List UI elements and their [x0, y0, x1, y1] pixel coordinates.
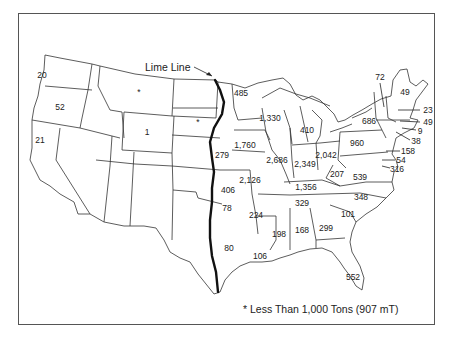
state-value-wi: 1,330	[259, 114, 280, 123]
state-value-ms: 198	[272, 230, 286, 239]
state-value-mt: *	[137, 88, 140, 97]
state-value-la: 106	[253, 252, 267, 261]
state-value-va: 539	[353, 173, 367, 182]
us-outline	[30, 55, 428, 294]
state-callout-ri: 9	[418, 127, 423, 136]
state-value-il: 2,686	[266, 156, 287, 165]
state-value-or: 52	[55, 103, 64, 112]
state-value-mn: 485	[234, 89, 248, 98]
state-value-tx: 80	[224, 244, 233, 253]
state-value-in: 2,349	[294, 160, 315, 169]
state-value-fl: 552	[346, 273, 360, 282]
state-value-wv: 207	[330, 170, 344, 179]
state-value-ny: 686	[362, 117, 376, 126]
state-callout-ct: 38	[411, 137, 420, 146]
us-map	[0, 0, 451, 340]
state-callout-me: 49	[400, 88, 409, 97]
state-value-nc: 348	[354, 193, 368, 202]
state-value-sc: 101	[341, 210, 355, 219]
state-value-al: 168	[295, 226, 309, 235]
state-value-sd: *	[196, 118, 199, 127]
lime-line-arrowhead	[206, 72, 212, 76]
state-value-ia: 1,760	[234, 141, 255, 150]
state-value-mi: 410	[300, 126, 314, 135]
state-value-ky: 1,356	[295, 183, 316, 192]
state-value-ok: 78	[222, 204, 231, 213]
state-value-ne-ks-border: 279	[215, 151, 229, 160]
state-value-ca: 21	[35, 136, 44, 145]
state-value-oh: 2,042	[315, 151, 336, 160]
state-value-wa: 20	[37, 71, 46, 80]
state-value-pa: 960	[350, 139, 364, 148]
state-callout-ma: 49	[423, 118, 432, 127]
state-value-ar: 224	[249, 211, 263, 220]
state-value-ks: 406	[221, 186, 235, 195]
state-value-tn: 329	[295, 199, 309, 208]
lime-line-label: Lime Line	[145, 61, 191, 73]
state-callout-vt: 72	[375, 73, 384, 82]
state-callout-nh: 23	[423, 106, 432, 115]
state-callout-md: 316	[390, 165, 404, 174]
state-value-wy: 1	[145, 128, 150, 137]
footnote: * Less Than 1,000 Tons (907 mT)	[243, 303, 398, 315]
state-value-mo: 2,126	[239, 176, 260, 185]
state-value-ga: 299	[319, 224, 333, 233]
